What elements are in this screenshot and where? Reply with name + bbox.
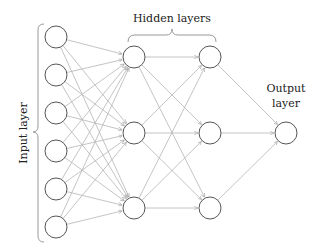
- output-node: [275, 122, 297, 144]
- connection-edge: [63, 46, 126, 124]
- connection-edge: [61, 68, 129, 217]
- hidden-1-node: [123, 122, 145, 144]
- input-layer-brace: [33, 24, 44, 242]
- input-node: [45, 64, 67, 86]
- connection-edge: [63, 142, 126, 218]
- output-layer-label-line2: layer: [272, 97, 301, 110]
- output-layer-label-line1: Output: [266, 82, 306, 95]
- connection-edge: [67, 211, 123, 225]
- connection-edge: [142, 65, 202, 125]
- connection-edge: [142, 65, 202, 125]
- input-node: [45, 178, 67, 200]
- input-node: [45, 216, 67, 238]
- hidden-1-node: [123, 197, 145, 219]
- connection-edge: [67, 40, 123, 54]
- hidden-2-node: [199, 46, 221, 68]
- connection-edge: [63, 66, 126, 142]
- neural-network-diagram: Input layer Hidden layers Output layer: [0, 0, 320, 252]
- input-node: [45, 140, 67, 162]
- input-node: [45, 26, 67, 48]
- connection-edge: [63, 122, 126, 199]
- hidden-2-node: [199, 122, 221, 144]
- connections: [61, 40, 278, 225]
- input-node: [45, 102, 67, 124]
- connection-edge: [142, 141, 202, 200]
- connection-edge: [67, 60, 123, 73]
- hidden-1-node: [123, 46, 145, 68]
- connection-edge: [65, 157, 124, 200]
- hidden-layers-label: Hidden layers: [133, 12, 211, 25]
- connection-edge: [139, 67, 205, 197]
- connection-edge: [218, 141, 278, 200]
- connection-edge: [142, 141, 202, 200]
- connection-edge: [65, 64, 124, 107]
- hidden-layers-brace: [128, 29, 216, 42]
- input-layer-label: Input layer: [17, 101, 30, 163]
- hidden-2-node: [199, 197, 221, 219]
- nodes: [45, 26, 297, 238]
